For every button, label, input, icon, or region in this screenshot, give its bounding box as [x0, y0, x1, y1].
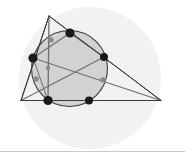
main-circle — [32, 31, 108, 107]
point-right — [100, 53, 108, 61]
gray-point-center — [46, 66, 50, 70]
gray-point-upper-left — [48, 37, 54, 43]
point-top — [65, 28, 74, 37]
point-bottom-left — [43, 96, 52, 105]
gray-point-lower-left — [33, 76, 39, 82]
geometric-figure-container — [0, 0, 185, 161]
footer-divider — [0, 151, 185, 152]
point-bottom-right — [85, 97, 93, 105]
geometry-diagram — [0, 0, 185, 161]
point-left — [28, 53, 37, 62]
gray-point-lower-right — [100, 77, 106, 83]
